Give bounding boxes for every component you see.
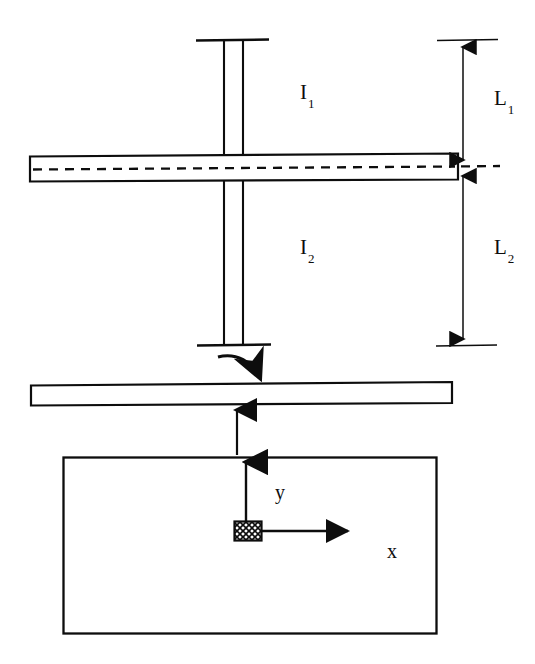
upper-column-label-base: I (300, 80, 307, 104)
middle-plate-group (31, 382, 452, 406)
lower-dimension-label-base: L (494, 235, 507, 259)
lower-column-group (197, 180, 271, 346)
upper-dimension-label-base: L (494, 86, 507, 110)
lower-dimension-label-sub: 2 (508, 251, 515, 266)
lower-dimension-group (436, 176, 497, 346)
upper-dimension-label: L1 (494, 88, 513, 112)
cross-section-rectangle (64, 458, 437, 634)
projection-curved-arrow (218, 356, 260, 378)
upper-dimension-label-sub: 1 (508, 102, 515, 117)
axis-y-label: y (275, 482, 285, 502)
projection-curved-arrow-group (218, 356, 260, 378)
cross-section-group (64, 458, 437, 634)
origin-hatched-square (235, 522, 262, 541)
horizontal-beam-group (30, 154, 500, 182)
upper-dimension-extension-top (437, 40, 498, 41)
upper-column-group (196, 40, 269, 157)
diagram-canvas (0, 0, 535, 664)
lower-column-label-sub: 2 (308, 251, 315, 266)
axis-x-label: x (387, 541, 397, 561)
lower-dimension-extension-bottom (436, 345, 497, 346)
lower-dimension-label: L2 (494, 237, 513, 261)
engineering-diagram-figure: I1 I2 L1 L2 y x (0, 0, 535, 664)
middle-plate-outline (31, 382, 452, 406)
lower-column-label-base: I (300, 235, 307, 259)
lower-column-label: I2 (300, 237, 314, 261)
lower-column-bottom-cap (197, 345, 271, 346)
upper-dimension-group (437, 40, 498, 161)
upper-column-label-sub: 1 (308, 96, 315, 111)
upper-column-label: I1 (300, 82, 314, 106)
upper-column-top-cap (196, 40, 269, 41)
